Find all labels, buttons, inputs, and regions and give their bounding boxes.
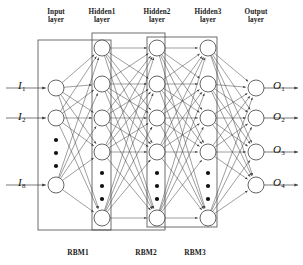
ellipsis-dot-hidden2: [155, 184, 159, 188]
neuron-hidden2: [149, 76, 165, 92]
connection-hidden2-to-hidden3: [162, 158, 202, 210]
ellipsis-dot-hidden3: [206, 171, 210, 175]
neuron-hidden1: [94, 110, 110, 126]
network-diagram: [0, 0, 303, 265]
connection-hidden1-to-hidden2: [109, 52, 149, 78]
connection-hidden1-to-hidden2: [106, 55, 152, 143]
layer-label-output: Outputlayer: [226, 8, 286, 25]
output-label-subscript: 2: [281, 116, 285, 124]
output-label-4: O4: [273, 176, 284, 188]
layer-label-line1: Output: [226, 8, 286, 16]
connection-hidden2-to-hidden3: [164, 53, 200, 79]
ellipsis-dot-hidden2: [155, 197, 159, 201]
connection-hidden3-to-output: [215, 93, 248, 113]
connection-hidden3-to-output: [213, 55, 251, 110]
output-label-subscript: 1: [281, 85, 285, 93]
ellipsis-dot-hidden1: [100, 171, 104, 175]
io-arrows-group: [6, 88, 298, 185]
layer-label-hidden1: Hidden1layer: [72, 8, 132, 25]
rbm-box-rbm1: [38, 40, 111, 230]
connection-hidden1-to-hidden2: [109, 122, 149, 146]
neuron-hidden2: [149, 40, 165, 56]
ellipsis-dot-input: [54, 164, 58, 168]
neuron-hidden1: [94, 40, 110, 56]
neuron-input: [48, 80, 64, 96]
connection-hidden3-to-output: [211, 55, 251, 142]
neuron-output: [248, 80, 264, 96]
connection-hidden2-to-hidden3: [161, 125, 204, 209]
connection-hidden1-to-hidden2: [104, 58, 153, 211]
rbm-caption-rbm3: RBM3: [170, 248, 220, 257]
layer-label-line1: Hidden1: [72, 8, 132, 16]
output-label-subscript: 4: [281, 182, 285, 190]
output-label-1: O1: [273, 79, 284, 91]
neuron-hidden3: [200, 144, 216, 160]
connection-input-to-hidden1: [63, 190, 94, 212]
neuron-hidden2: [149, 210, 165, 226]
connection-hidden2-to-hidden3: [162, 92, 202, 145]
output-label-3: O3: [273, 143, 284, 155]
connection-hidden3-to-output: [215, 124, 248, 147]
ellipsis-dot-hidden3: [206, 184, 210, 188]
input-label-8: I8: [18, 176, 25, 188]
ellipsis-dot-hidden3: [206, 197, 210, 201]
output-label-2: O2: [273, 110, 284, 122]
neuron-output: [248, 144, 264, 160]
connection-hidden2-to-hidden3: [159, 58, 205, 211]
connection-input-to-hidden1: [59, 58, 99, 178]
input-label-2: I2: [18, 110, 25, 122]
ellipsis-dot-hidden1: [100, 197, 104, 201]
connection-hidden2-to-hidden3: [160, 91, 205, 208]
neuron-input: [48, 177, 64, 193]
neuron-hidden2: [149, 144, 165, 160]
connection-hidden3-to-output: [215, 157, 248, 180]
connection-hidden1-to-hidden2: [107, 158, 150, 210]
neuron-hidden1: [94, 210, 110, 226]
connection-hidden1-to-hidden2: [109, 88, 149, 112]
neuron-output: [248, 110, 264, 126]
neuron-hidden3: [200, 40, 216, 56]
connections-group: [59, 48, 253, 218]
ellipsis-dot-input: [54, 151, 58, 155]
neuron-hidden3: [200, 110, 216, 126]
connection-input-to-hidden1: [60, 57, 96, 112]
layer-label-line2: layer: [72, 16, 132, 24]
ellipsis-dot-hidden2: [155, 171, 159, 175]
connection-input-to-hidden1: [64, 85, 92, 87]
input-label-subscript: 1: [22, 85, 26, 93]
connection-hidden1-to-hidden2: [107, 92, 151, 146]
output-label-subscript: 3: [281, 149, 285, 157]
input-label-1: I1: [18, 79, 25, 91]
rbm-caption-rbm2: RBM2: [121, 248, 171, 257]
connection-input-to-hidden1: [62, 55, 94, 83]
rbm-caption-rbm1: RBM1: [53, 248, 103, 257]
connection-hidden3-to-output: [216, 85, 246, 87]
connection-hidden2-to-hidden3: [164, 122, 200, 146]
layer-label-line2: layer: [226, 16, 286, 24]
neuron-hidden2: [149, 110, 165, 126]
neuron-hidden3: [200, 210, 216, 226]
neuron-output: [248, 177, 264, 193]
connection-hidden3-to-output: [211, 91, 251, 176]
neuron-hidden1: [94, 144, 110, 160]
connection-hidden3-to-output: [214, 53, 248, 81]
neuron-input: [48, 110, 64, 126]
input-label-subscript: 8: [22, 182, 26, 190]
ellipsis-dot-hidden1: [100, 184, 104, 188]
connection-hidden2-to-hidden3: [161, 127, 204, 211]
connection-hidden1-to-hidden2: [105, 91, 153, 208]
neuron-hidden1: [94, 76, 110, 92]
ellipsis-dot-input: [54, 138, 58, 142]
neuron-hidden3: [200, 76, 216, 92]
connection-hidden1-to-hidden2: [106, 127, 152, 211]
input-label-subscript: 2: [22, 116, 26, 124]
connection-hidden2-to-hidden3: [161, 55, 204, 143]
connection-input-to-hidden1: [61, 126, 97, 178]
